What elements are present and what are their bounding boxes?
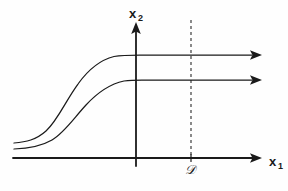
- figure-container: x 2 x 1 𝒟: [0, 0, 288, 191]
- y-axis-label-main: x: [129, 6, 137, 21]
- y-axis-label-subscript: 2: [138, 13, 143, 23]
- trajectory-curve-lower: [14, 80, 252, 149]
- marker-label-D: 𝒟: [185, 162, 198, 177]
- trajectory-curve-upper: [14, 55, 252, 143]
- plot-canvas: x 2 x 1 𝒟: [0, 0, 288, 191]
- x-axis-label-subscript: 1: [278, 161, 283, 171]
- x-axis-label-main: x: [269, 154, 277, 169]
